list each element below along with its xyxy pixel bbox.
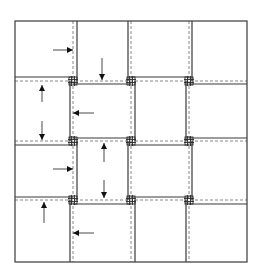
arrow-left-icon [73, 110, 94, 116]
arrow-up-icon [101, 143, 107, 162]
arrow-down-icon [39, 121, 45, 140]
arrow-up-icon [39, 85, 45, 102]
dashed-reference-grid [15, 21, 247, 262]
arrow-down-icon [99, 58, 105, 80]
arrow-down-icon [101, 180, 107, 198]
grid-diagram [0, 0, 261, 274]
junction-markers [68, 76, 194, 205]
diagram-canvas [0, 0, 261, 274]
arrow-up-icon [41, 202, 47, 223]
arrow-right-icon [53, 47, 73, 53]
arrow-left-icon [73, 230, 94, 236]
arrow-right-icon [53, 166, 73, 172]
